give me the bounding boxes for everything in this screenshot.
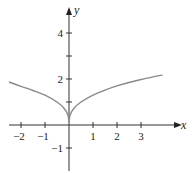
x-tick-label: 2: [114, 130, 120, 142]
y-axis-arrow-icon: [66, 7, 72, 15]
axes: [9, 7, 182, 171]
y-tick-label: 4: [58, 27, 64, 39]
data-curve: [9, 75, 163, 121]
x-tick-label: −1: [37, 130, 49, 142]
plot-area: −2−1123−124 x y: [0, 0, 193, 173]
x-axis-label: x: [180, 118, 187, 132]
y-tick-label: 2: [58, 73, 64, 85]
chart: −2−1123−124 x y: [0, 0, 193, 173]
y-axis-label: y: [73, 3, 80, 17]
x-tick-label: 1: [90, 130, 96, 142]
x-tick-label: 3: [138, 130, 144, 142]
x-tick-label: −2: [13, 130, 25, 142]
y-tick-label: −1: [51, 142, 63, 154]
